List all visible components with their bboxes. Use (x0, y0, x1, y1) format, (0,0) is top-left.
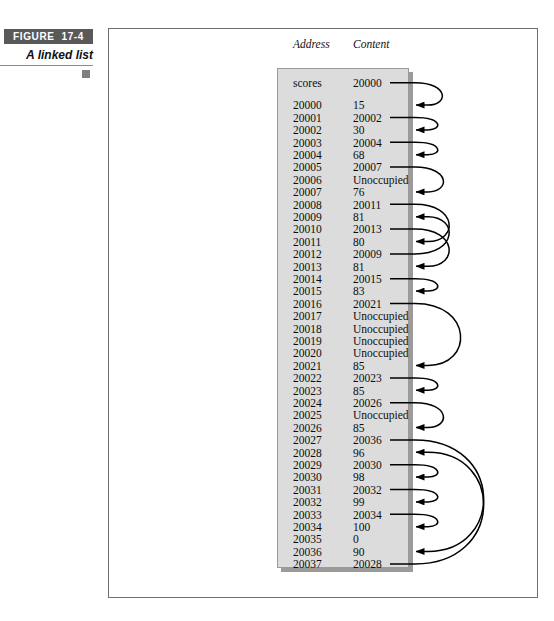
cell-content: 81 (353, 211, 365, 223)
cell-content: Unoccupied (353, 335, 409, 347)
cell-address: 20028 (293, 447, 322, 459)
cell-content: 100 (353, 521, 370, 533)
cell-address: 20035 (293, 533, 322, 545)
table-row: 2001583 (277, 285, 409, 297)
cell-content: 96 (353, 447, 365, 459)
table-row: 2000520007 (277, 161, 409, 173)
cell-address: 20031 (293, 484, 322, 496)
cell-content: Unoccupied (353, 310, 409, 322)
table-row: 2003098 (277, 471, 409, 483)
cell-content: 20028 (353, 558, 382, 570)
cell-content: Unoccupied (353, 409, 409, 421)
table-row: 200350 (277, 533, 409, 545)
table-row: 2000981 (277, 211, 409, 223)
cell-address: 20017 (293, 310, 322, 322)
cell-address: 20016 (293, 298, 322, 310)
table-row: 2002385 (277, 385, 409, 397)
cell-address: 20021 (293, 360, 322, 372)
cell-address: 20033 (293, 509, 322, 521)
table-row: 2002720036 (277, 434, 409, 446)
cell-address: 20015 (293, 285, 322, 297)
cell-address: 20006 (293, 174, 322, 186)
cell-content: 90 (353, 546, 365, 558)
table-row: 2003720028 (277, 558, 409, 570)
table-row: 2000776 (277, 186, 409, 198)
cell-content: Unoccupied (353, 347, 409, 359)
cell-address: 20008 (293, 199, 322, 211)
cell-content: 20034 (353, 509, 382, 521)
cell-address: 20023 (293, 385, 322, 397)
cell-address: 20007 (293, 186, 322, 198)
cell-content: Unoccupied (353, 323, 409, 335)
table-row: 2000015 (277, 99, 409, 111)
cell-address: 20012 (293, 248, 322, 260)
cell-content: 20002 (353, 112, 382, 124)
cell-content: 20013 (353, 223, 382, 235)
table-row: 2001381 (277, 261, 409, 273)
cell-address: 20010 (293, 223, 322, 235)
cell-content: 20007 (353, 161, 382, 173)
cell-content: 20030 (353, 459, 382, 471)
cell-address: 20014 (293, 273, 322, 285)
table-row: 2000320004 (277, 137, 409, 149)
cell-content: 85 (353, 360, 365, 372)
table-row: 2000820011 (277, 199, 409, 211)
cell-content: 85 (353, 385, 365, 397)
cell-content: 81 (353, 261, 365, 273)
cell-content: 83 (353, 285, 365, 297)
table-row: 2000120002 (277, 112, 409, 124)
cell-address: 20025 (293, 409, 322, 421)
cell-content: Unoccupied (353, 174, 409, 186)
cell-address: 20000 (293, 99, 322, 111)
cell-address: 20034 (293, 521, 322, 533)
cell-content: 20036 (353, 434, 382, 446)
table-row: 2000468 (277, 149, 409, 161)
cell-address: 20037 (293, 558, 322, 570)
cell-address: 20003 (293, 137, 322, 149)
table-row: 2002220023 (277, 372, 409, 384)
cell-address: 20027 (293, 434, 322, 446)
cell-content: 20023 (353, 372, 382, 384)
table-row: 2001620021 (277, 298, 409, 310)
table-row: 2002685 (277, 422, 409, 434)
table-row: 2001180 (277, 236, 409, 248)
memory-table: scores2000020000152000120002200023020003… (0, 0, 554, 621)
cell-content: 99 (353, 496, 365, 508)
table-row: 2003120032 (277, 484, 409, 496)
cell-address: 20019 (293, 335, 322, 347)
cell-content: 20026 (353, 397, 382, 409)
cell-content: 20004 (353, 137, 382, 149)
cell-address: 20001 (293, 112, 322, 124)
cell-address: 20030 (293, 471, 322, 483)
cell-address: 20022 (293, 372, 322, 384)
cell-address: 20029 (293, 459, 322, 471)
table-row: scores20000 (277, 77, 409, 89)
cell-content: 76 (353, 186, 365, 198)
table-row: 20025Unoccupied (277, 409, 409, 421)
cell-content: 85 (353, 422, 365, 434)
cell-content: 0 (353, 533, 359, 545)
cell-content: 20015 (353, 273, 382, 285)
table-row: 2003690 (277, 546, 409, 558)
cell-content: 20021 (353, 298, 382, 310)
table-row: 2002920030 (277, 459, 409, 471)
cell-content: 80 (353, 236, 365, 248)
cell-content: 20011 (353, 199, 381, 211)
cell-content: 98 (353, 471, 365, 483)
table-row: 2002896 (277, 447, 409, 459)
cell-address: 20018 (293, 323, 322, 335)
cell-address: 20024 (293, 397, 322, 409)
cell-address: 20009 (293, 211, 322, 223)
table-row: 20034100 (277, 521, 409, 533)
table-row: 2000230 (277, 124, 409, 136)
cell-address: 20020 (293, 347, 322, 359)
cell-content: 68 (353, 149, 365, 161)
cell-content: 30 (353, 124, 365, 136)
cell-address: 20011 (293, 236, 321, 248)
cell-content: 20000 (353, 77, 382, 89)
table-row: 2003299 (277, 496, 409, 508)
cell-address: 20026 (293, 422, 322, 434)
table-row: 20017Unoccupied (277, 310, 409, 322)
table-row: 20018Unoccupied (277, 323, 409, 335)
table-row: 20019Unoccupied (277, 335, 409, 347)
